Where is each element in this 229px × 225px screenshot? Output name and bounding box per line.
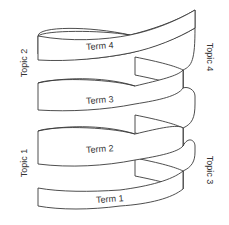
helix-diagram: Term 4 Term 3 Term 2 Term 1 Topic 2 [0, 0, 229, 225]
term-3-label: Term 3 [86, 94, 114, 106]
topic-1-label: Topic 1 [19, 149, 29, 178]
term-1-label: Term 1 [96, 193, 124, 205]
topic-2-label: Topic 2 [19, 49, 29, 78]
term-2-label: Term 2 [86, 143, 114, 155]
topic-4-label: Topic 4 [205, 43, 215, 72]
topic-3-label: Topic 3 [205, 156, 215, 185]
term-4-label: Term 4 [86, 40, 114, 52]
